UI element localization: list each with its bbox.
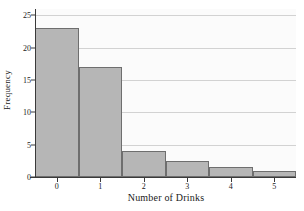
y-tick-mark-0: [31, 177, 35, 178]
x-tick-label-1: 1: [98, 182, 102, 191]
y-axis-tick-labels: 0510152025: [12, 0, 31, 211]
bar-1: [79, 67, 123, 177]
y-tick-mark-25: [31, 15, 35, 16]
x-tick-label-3: 3: [185, 182, 189, 191]
bar-2: [122, 151, 166, 177]
y-axis-title-text: Frequency: [2, 70, 12, 110]
y-tick-mark-20: [31, 47, 35, 48]
y-tick-mark-5: [31, 144, 35, 145]
y-tick-mark-15: [31, 80, 35, 81]
x-tick-label-2: 2: [142, 182, 146, 191]
plot-area: [35, 9, 296, 177]
bar-3: [166, 161, 210, 177]
y-tick-label-15: 15: [23, 76, 31, 85]
y-tick-label-10: 10: [23, 108, 31, 117]
x-tick-label-4: 4: [229, 182, 233, 191]
gridline-y-25: [35, 15, 296, 16]
y-axis-line: [35, 9, 36, 178]
bar-4: [209, 167, 253, 177]
x-axis-title: Number of Drinks: [36, 192, 296, 203]
histogram-figure: Frequency 0510152025 Number of Drinks 01…: [0, 0, 304, 211]
bar-0: [35, 28, 79, 177]
y-tick-label-20: 20: [23, 43, 31, 52]
x-tick-label-5: 5: [272, 182, 276, 191]
y-tick-label-25: 25: [23, 11, 31, 20]
y-tick-mark-10: [31, 112, 35, 113]
x-tick-label-0: 0: [55, 182, 59, 191]
x-axis-line: [30, 177, 296, 178]
